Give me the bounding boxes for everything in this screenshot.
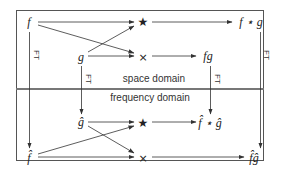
ft-label-fg: FT — [213, 74, 221, 84]
edge-f-to-mult — [38, 25, 134, 53]
space-domain-label: space domain — [123, 73, 185, 84]
ft-label-f: FT — [32, 50, 40, 60]
outer-frame — [17, 11, 264, 161]
convolution-theorem-diagram: f g ★ × f ⋆ g fg space domain frequency … — [0, 0, 288, 180]
convolution-star-icon-bottom: ★ — [138, 118, 149, 129]
multiply-icon-bottom: × — [138, 153, 147, 164]
node-fg: fg — [203, 50, 212, 62]
node-f-hat: f̂ — [27, 152, 30, 164]
ft-label-fconvg: FT — [262, 50, 270, 60]
node-g: g — [78, 51, 84, 63]
frequency-domain-label: frequency domain — [110, 92, 190, 103]
node-fhat-ghat: f̂ĝ — [249, 152, 258, 164]
node-f-conv-g: f ⋆ g — [239, 16, 262, 28]
multiply-icon: × — [138, 52, 147, 63]
node-g-hat: ĝ — [78, 116, 84, 128]
ft-label-g: FT — [84, 74, 92, 84]
edge-g-to-conv — [88, 26, 134, 52]
edge-ghat-to-mult — [88, 126, 134, 153]
edge-fhat-to-conv — [38, 126, 134, 154]
convolution-star-icon: ★ — [138, 17, 149, 28]
node-f: f — [27, 16, 30, 28]
node-fhat-conv-ghat: f̂ ⋆ ĝ — [198, 117, 221, 129]
